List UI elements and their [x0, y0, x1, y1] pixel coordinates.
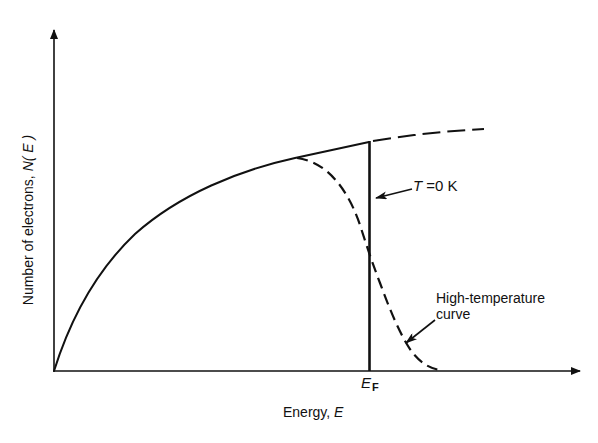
high-temp-arrow [406, 320, 435, 343]
high-temp-annotation: High-temperaturecurve [436, 290, 545, 322]
fermi-symbol: E [361, 374, 371, 391]
x-axis-label-text: Energy, [283, 404, 334, 420]
fermi-subscript: F [372, 381, 379, 393]
zero-kelvin-curve [54, 142, 369, 371]
t0-arrow [376, 189, 412, 198]
diagram-canvas [0, 0, 598, 443]
t0-value: =0 K [422, 177, 457, 194]
x-axis-label-symbol: E [334, 404, 343, 420]
high-temp-line1: High-temperature [436, 290, 545, 306]
t0-symbol: T [413, 177, 422, 194]
x-axis-label: Energy, E [283, 404, 343, 420]
fermi-energy-label: EF [361, 374, 379, 393]
y-axis-label-text: Number of electrons, [20, 171, 36, 305]
y-axis-label: Number of electrons, N( E ) [20, 135, 36, 305]
high-temp-line2: curve [436, 306, 545, 322]
y-axis-label-symbol: N [20, 161, 36, 171]
dos-continuation-dashed [373, 129, 484, 141]
y-axis-label-paren: ( E ) [20, 135, 36, 161]
t0-annotation: T =0 K [413, 177, 458, 194]
